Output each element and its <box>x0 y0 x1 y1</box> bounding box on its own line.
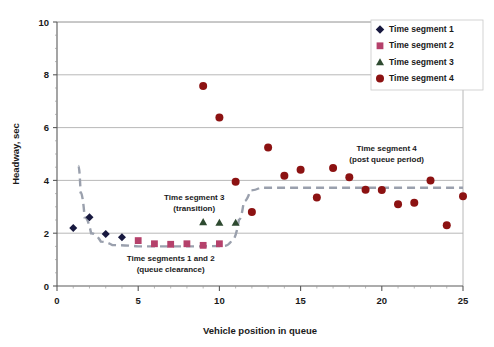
x-axis-title: Vehicle position in queue <box>203 325 317 336</box>
headway-scatter-chart: 0246810 0510152025 Time segments 1 and 2… <box>0 0 494 347</box>
chart-legend: Time segment 1Time segment 2Time segment… <box>371 20 483 90</box>
x-tick-label: 25 <box>458 295 469 306</box>
data-point-square <box>167 241 174 248</box>
data-point-circle <box>394 200 402 208</box>
data-point-circle <box>313 194 321 202</box>
x-tick-label: 0 <box>54 295 59 306</box>
x-tick-label: 20 <box>377 295 388 306</box>
data-point-circle <box>215 114 223 122</box>
data-point-square <box>151 240 158 247</box>
y-tick-label: 6 <box>44 122 49 133</box>
data-point-square <box>377 42 384 49</box>
data-point-circle <box>345 173 353 181</box>
annotation-line: Time segment 4 <box>357 144 418 153</box>
data-point-circle <box>378 186 386 194</box>
x-tick-label: 5 <box>136 295 142 306</box>
data-point-square <box>184 240 191 247</box>
legend-item-label: Time segment 4 <box>389 73 454 83</box>
y-tick-label: 2 <box>44 228 49 239</box>
data-point-circle <box>362 186 370 194</box>
y-tick-labels: 0246810 <box>38 17 49 292</box>
data-point-square <box>200 242 207 249</box>
data-point-circle <box>329 164 337 172</box>
data-point-circle <box>297 166 305 174</box>
annotation-line: Time segments 1 and 2 <box>127 254 215 263</box>
data-point-circle <box>280 172 288 180</box>
annotation-line: (queue clearance) <box>137 265 205 274</box>
y-tick-label: 8 <box>44 69 49 80</box>
y-tick-label: 4 <box>44 175 50 186</box>
annotation-line: Time segment 3 <box>164 193 225 202</box>
data-point-square <box>216 240 223 247</box>
data-point-square <box>135 237 142 244</box>
legend-item-label: Time segment 3 <box>389 57 454 67</box>
data-point-circle <box>248 208 256 216</box>
data-point-circle <box>264 143 272 151</box>
chart-container: 0246810 0510152025 Time segments 1 and 2… <box>0 0 494 347</box>
legend-item-2[interactable]: Time segment 2 <box>377 40 454 50</box>
data-point-circle <box>232 178 240 186</box>
x-tick-label: 15 <box>295 295 306 306</box>
y-tick-label: 0 <box>44 281 49 292</box>
data-point-circle <box>459 192 467 200</box>
data-point-circle <box>376 75 384 83</box>
y-tick-label: 10 <box>38 17 49 28</box>
annotation-line: (post queue period) <box>349 155 424 164</box>
annotation-line: (transition) <box>173 204 215 213</box>
data-point-circle <box>443 221 451 229</box>
data-point-circle <box>410 199 418 207</box>
y-axis-title: Headway, sec <box>10 123 21 185</box>
legend-item-label: Time segment 1 <box>389 24 454 34</box>
data-point-circle <box>199 82 207 90</box>
data-point-circle <box>427 176 435 184</box>
x-tick-labels: 0510152025 <box>54 295 469 306</box>
legend-item-label: Time segment 2 <box>389 40 454 50</box>
x-tick-label: 10 <box>214 295 225 306</box>
